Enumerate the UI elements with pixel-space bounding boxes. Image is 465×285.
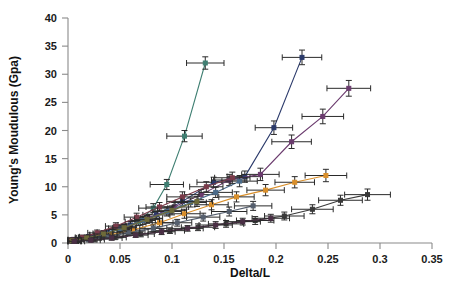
data-point-marker: [122, 226, 126, 230]
data-point-marker: [258, 172, 262, 176]
y-tick-label: 35: [45, 40, 57, 52]
data-point-marker: [251, 204, 255, 208]
data-point-marker: [234, 195, 238, 199]
data-point-marker: [310, 207, 314, 211]
data-point-marker: [293, 180, 297, 184]
data-point-marker: [160, 230, 164, 234]
data-point-marker: [300, 55, 304, 59]
data-point-marker: [170, 208, 174, 212]
chart-figure: 0510152025303540 00.050.10.150.20.250.30…: [0, 0, 465, 285]
data-point-marker: [214, 223, 218, 227]
x-axis-title: Delta/L: [230, 266, 270, 280]
x-tick-label: 0.35: [421, 253, 442, 265]
series-purple-mid: [68, 80, 371, 243]
data-point-marker: [186, 226, 190, 230]
data-point-marker: [347, 86, 351, 90]
x-tick-label: 0.3: [372, 253, 387, 265]
data-point-marker: [175, 221, 179, 225]
data-point-marker: [321, 114, 325, 118]
y-tick-label: 15: [45, 153, 57, 165]
data-point-marker: [195, 199, 199, 203]
data-point-marker: [241, 220, 245, 224]
x-tick-label: 0: [65, 253, 71, 265]
data-point-marker: [180, 195, 184, 199]
data-point-marker: [366, 193, 370, 197]
data-series-layer: [68, 50, 390, 244]
y-tick-label: 5: [51, 209, 57, 221]
y-tick-label: 30: [45, 68, 57, 80]
x-tick-label: 0.25: [317, 253, 338, 265]
data-point-marker: [272, 126, 276, 130]
data-point-marker: [89, 238, 93, 242]
data-point-marker: [182, 134, 186, 138]
y-axis-group: 0510152025303540: [45, 12, 68, 249]
y-tick-label: 10: [45, 181, 57, 193]
data-point-marker: [338, 198, 342, 202]
x-axis-group: 00.050.10.150.20.250.30.35: [65, 243, 443, 265]
data-point-marker: [165, 183, 169, 187]
data-point-marker: [158, 205, 162, 209]
data-point-marker: [101, 232, 105, 236]
data-point-marker: [203, 61, 207, 65]
data-point-marker: [151, 226, 155, 230]
data-point-marker: [135, 215, 139, 219]
data-point-marker: [227, 210, 231, 214]
data-point-marker: [201, 215, 205, 219]
data-point-marker: [290, 140, 294, 144]
x-tick-group: 00.050.10.150.20.250.30.35: [65, 243, 443, 265]
y-tick-label: 25: [45, 96, 57, 108]
data-point-marker: [214, 190, 218, 194]
data-point-marker: [238, 179, 242, 183]
x-tick-label: 0.1: [164, 253, 179, 265]
data-point-marker: [324, 174, 328, 178]
y-tick-label: 20: [45, 125, 57, 137]
data-point-marker: [182, 212, 186, 216]
data-point-marker: [230, 176, 234, 180]
data-point-marker: [204, 185, 208, 189]
x-tick-label: 0.15: [213, 253, 234, 265]
data-point-marker: [110, 236, 114, 240]
data-point-marker: [282, 214, 286, 218]
data-point-marker: [85, 236, 89, 240]
data-point-marker: [134, 233, 138, 237]
data-point-marker: [145, 217, 149, 221]
y-tick-group: 0510152025303540: [45, 12, 68, 249]
x-tick-label: 0.2: [268, 253, 283, 265]
data-point-marker: [269, 216, 273, 220]
x-tick-label: 0.05: [109, 253, 130, 265]
y-tick-label: 0: [51, 237, 57, 249]
plot-canvas: 0510152025303540 00.050.10.150.20.250.30…: [0, 0, 465, 285]
y-tick-label: 40: [45, 12, 57, 24]
data-point-marker: [264, 188, 268, 192]
y-axis-title: Young's Moudulous (Gpa): [7, 56, 21, 204]
data-point-marker: [72, 239, 76, 243]
